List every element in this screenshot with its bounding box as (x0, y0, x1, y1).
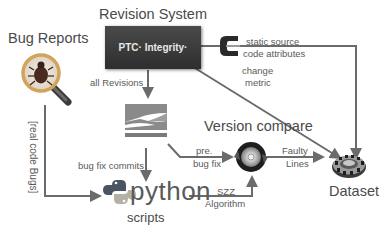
scripts-caption: scripts (127, 210, 165, 225)
label-algorithm: Algorithm (205, 198, 245, 209)
label-all-revisions: all Revisions (90, 77, 143, 88)
label-szz: SZZ (217, 186, 235, 197)
version-compare-title: Version compare (204, 118, 313, 134)
ptc-logo-text: PTC· Integrity· (119, 42, 188, 53)
label-faulty: Faulty (282, 145, 308, 156)
edge-static-attributes-2 (240, 46, 356, 158)
c-bracket-icon (220, 36, 240, 56)
compare-disc-icon (234, 142, 268, 172)
label-bug-fix-commits: bug fix commits (78, 160, 144, 171)
python-word: python (130, 176, 211, 207)
label-real-code-bugs: [real code Bugs] (28, 121, 39, 193)
label-pre: pre. (196, 145, 212, 156)
magnifier-bug-icon (23, 55, 68, 102)
label-code-attributes: code attributes (243, 48, 305, 59)
bug-reports-title: Bug Reports (8, 30, 89, 46)
label-change: change (242, 65, 273, 76)
subversion-logo (124, 102, 168, 140)
label-bug-fix: bug fix (193, 158, 221, 169)
revision-system-title: Revision System (99, 6, 207, 22)
edge-real-code-bugs (45, 105, 100, 196)
label-lines: Lines (286, 158, 309, 169)
dataset-title: Dataset (329, 183, 379, 199)
label-static-source: static source (246, 36, 299, 47)
ptc-integrity-logo: PTC· Integrity· (105, 26, 201, 69)
label-metric: metric (245, 77, 271, 88)
dataset-ring-icon (332, 155, 366, 178)
